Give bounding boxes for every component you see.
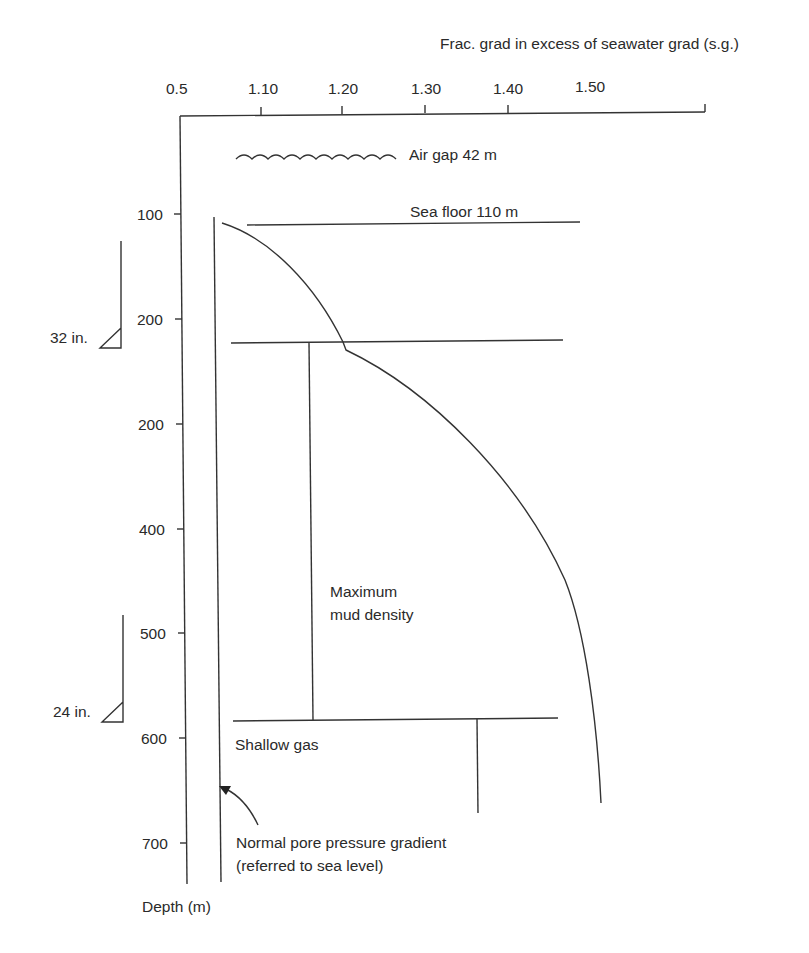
normal-pore-pressure-label-1: Normal pore pressure gradient (236, 834, 447, 851)
shallow-gas-label: Shallow gas (235, 736, 319, 753)
x-axis-line (180, 112, 705, 116)
casing-32-line (231, 340, 563, 343)
sea-floor-label: Sea floor 110 m (410, 203, 518, 220)
x-tick-labels: 0.5 1.10 1.20 1.30 1.40 1.50 (166, 78, 606, 97)
sea-floor-line (247, 222, 580, 225)
air-gap-label: Air gap 42 m (409, 146, 497, 163)
y-tick-label: 700 (142, 835, 168, 852)
x-tick-label: 1.30 (411, 80, 442, 97)
x-tick-label: 1.50 (575, 78, 606, 95)
air-gap-wave-icon (236, 155, 396, 159)
casing-32-label: 32 in. (50, 329, 88, 346)
shallow-gas-line (233, 718, 558, 721)
y-tick-labels: 100 200 200 400 500 600 700 (137, 206, 168, 852)
casing-24-label: 24 in. (53, 703, 91, 720)
normal-pore-pressure-label-2: (referred to sea level) (236, 857, 383, 874)
y-axis-title: Depth (m) (142, 898, 211, 915)
shallow-gas-vertical-line (477, 719, 478, 813)
y-tick-label: 400 (139, 521, 165, 538)
y-tick-label: 600 (141, 730, 167, 747)
y-tick-label: 200 (138, 416, 164, 433)
casing-24-marker: 24 in. (53, 615, 123, 722)
y-axis-line (180, 116, 187, 884)
chart-canvas: Frac. grad in excess of seawater grad (s… (0, 0, 809, 953)
max-mud-density-label-2: mud density (330, 606, 414, 623)
x-tick-label: 1.40 (493, 80, 524, 97)
normal-pore-pressure-arrow-icon (219, 786, 258, 825)
normal-pore-pressure-line (214, 217, 221, 882)
y-tick-label: 100 (137, 206, 163, 223)
x-tick-label: 1.10 (248, 80, 279, 97)
x-tick-label: 0.5 (166, 80, 188, 97)
y-ticks (174, 214, 187, 843)
x-tick-label: 1.20 (328, 80, 359, 97)
max-mud-density-line (309, 343, 313, 720)
max-mud-density-label-1: Maximum (330, 583, 397, 600)
casing-32-marker: 32 in. (50, 241, 121, 348)
fracture-gradient-curve (222, 223, 601, 803)
y-tick-label: 200 (137, 311, 163, 328)
y-tick-label: 500 (140, 625, 166, 642)
x-axis-title: Frac. grad in excess of seawater grad (s… (440, 35, 739, 52)
